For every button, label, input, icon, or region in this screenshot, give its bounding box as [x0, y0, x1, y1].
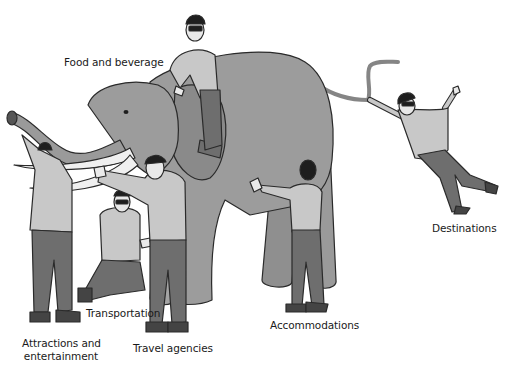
label-attractions-line2: entertainment	[22, 350, 100, 363]
label-travel-agencies: Travel agencies	[133, 342, 213, 355]
label-attractions-and-entertainment: Attractions and entertainment	[22, 337, 100, 363]
label-food-and-beverage: Food and beverage	[64, 56, 164, 69]
label-attractions-line1: Attractions and	[22, 337, 100, 350]
label-accommodations: Accommodations	[270, 319, 359, 332]
figure-destinations	[370, 86, 498, 214]
figure-transportation	[78, 190, 152, 302]
elephant-tail	[318, 62, 398, 100]
illustration	[0, 0, 506, 366]
label-destinations: Destinations	[432, 222, 497, 235]
label-transportation: Transportation	[86, 307, 160, 320]
